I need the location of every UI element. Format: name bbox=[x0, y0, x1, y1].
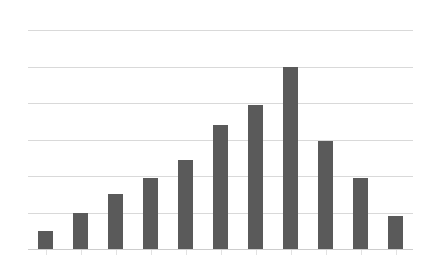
bar[interactable] bbox=[178, 160, 193, 249]
x-tick bbox=[361, 250, 362, 255]
x-tick bbox=[326, 250, 327, 255]
bar[interactable] bbox=[388, 216, 403, 249]
bars-layer bbox=[28, 30, 413, 249]
x-tick bbox=[256, 250, 257, 255]
x-tick bbox=[291, 250, 292, 255]
x-tick bbox=[81, 250, 82, 255]
x-tick bbox=[46, 250, 47, 255]
x-axis-line bbox=[28, 249, 413, 250]
bar-chart bbox=[0, 0, 438, 275]
bar[interactable] bbox=[318, 141, 333, 249]
x-tick bbox=[396, 250, 397, 255]
plot-area bbox=[28, 30, 413, 249]
x-tick bbox=[116, 250, 117, 255]
bar[interactable] bbox=[283, 67, 298, 250]
x-tick bbox=[151, 250, 152, 255]
bar[interactable] bbox=[353, 178, 368, 249]
bar[interactable] bbox=[38, 231, 53, 249]
bar[interactable] bbox=[108, 194, 123, 249]
bar[interactable] bbox=[213, 125, 228, 249]
bar[interactable] bbox=[73, 213, 88, 250]
x-tick bbox=[221, 250, 222, 255]
bar[interactable] bbox=[143, 178, 158, 249]
bar[interactable] bbox=[248, 105, 263, 249]
x-tick bbox=[186, 250, 187, 255]
